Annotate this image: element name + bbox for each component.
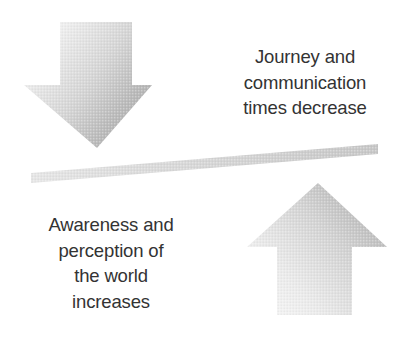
- balance-bar: [31, 144, 378, 183]
- diagram-canvas: Journey and communication times decrease…: [0, 0, 398, 339]
- up-arrow-icon: [247, 183, 387, 315]
- down-arrow-icon: [24, 22, 152, 148]
- caption-awareness-increases: Awareness and perception of the world in…: [12, 212, 210, 314]
- caption-journey-times-decrease: Journey and communication times decrease: [212, 44, 398, 121]
